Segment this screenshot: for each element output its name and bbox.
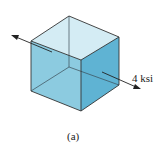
stress-cube-figure: 4 ksi (a)	[0, 0, 160, 149]
stress-label: 4 ksi	[132, 72, 153, 84]
figure-caption: (a)	[67, 130, 79, 142]
